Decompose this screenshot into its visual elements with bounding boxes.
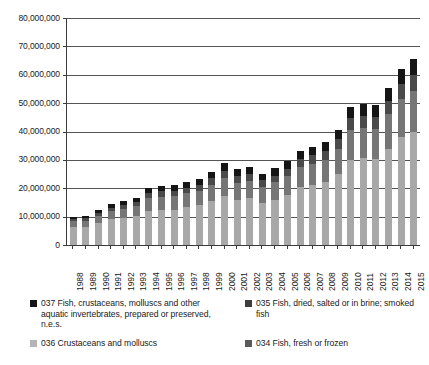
- bar-slot: [168, 18, 181, 245]
- bar-segment-034: [297, 187, 304, 245]
- legend-swatch-icon: [30, 300, 37, 307]
- bar-segment-034: [246, 198, 253, 245]
- stacked-bar[interactable]: [234, 169, 241, 245]
- bar-segment-037: [398, 69, 405, 84]
- stacked-bar[interactable]: [347, 107, 354, 245]
- bar-segment-034: [372, 159, 379, 245]
- x-axis-tick-label: 1988: [76, 272, 85, 291]
- x-axis-tick-label: 1994: [152, 272, 161, 291]
- bar-segment-035: [284, 169, 291, 177]
- legend-label: 037 Fish, crustaceans, molluscs and othe…: [41, 298, 220, 330]
- stacked-bar[interactable]: [95, 210, 102, 245]
- stacked-bar[interactable]: [297, 151, 304, 245]
- bar-segment-034: [259, 203, 266, 245]
- bar-segment-035: [335, 139, 342, 149]
- bar-segment-036: [297, 167, 304, 187]
- bar-segment-037: [284, 161, 291, 169]
- stacked-bar[interactable]: [385, 88, 392, 245]
- bar-slot: [319, 18, 332, 245]
- x-axis-tick-label: 2010: [354, 272, 363, 291]
- x-axis-tick-label: 2012: [379, 272, 388, 291]
- bar-segment-036: [246, 181, 253, 198]
- legend-swatch-icon: [245, 340, 252, 347]
- bar-segment-037: [259, 174, 266, 181]
- bar-segment-037: [360, 104, 367, 116]
- y-axis-tick-label: 80,000,000: [18, 14, 60, 23]
- bar-segment-036: [347, 130, 354, 160]
- bar-segment-034: [120, 218, 127, 245]
- stacked-bar[interactable]: [284, 161, 291, 245]
- stacked-bar[interactable]: [196, 179, 203, 245]
- y-axis-tick-label: 0: [55, 241, 60, 250]
- bar-segment-036: [398, 99, 405, 137]
- bar-segment-034: [234, 200, 241, 245]
- bar-segment-036: [171, 196, 178, 210]
- bar-segment-034: [196, 205, 203, 245]
- x-axis-tick-label: 1996: [177, 272, 186, 291]
- stacked-bar[interactable]: [360, 104, 367, 245]
- y-axis-tick-label: 70,000,000: [18, 42, 60, 51]
- bar-segment-036: [322, 160, 329, 182]
- bar-segment-036: [410, 91, 417, 132]
- bar-segment-037: [347, 107, 354, 119]
- bar-slot: [206, 18, 219, 245]
- stacked-bar[interactable]: [246, 167, 253, 245]
- plot-area: [66, 18, 420, 246]
- stacked-bar[interactable]: [398, 69, 405, 245]
- stacked-bar[interactable]: [208, 172, 215, 245]
- stacked-bar[interactable]: [70, 217, 77, 245]
- stacked-bar-chart: 010,000,00020,000,00030,000,00040,000,00…: [0, 0, 429, 365]
- bar-segment-035: [246, 174, 253, 181]
- bar-segment-036: [108, 211, 115, 219]
- stacked-bar[interactable]: [309, 147, 316, 245]
- y-axis-tick-label: 60,000,000: [18, 70, 60, 79]
- bar-segment-034: [183, 207, 190, 245]
- legend-item[interactable]: 037 Fish, crustaceans, molluscs and othe…: [30, 298, 220, 330]
- bar-slot: [143, 18, 156, 245]
- bar-segment-036: [183, 193, 190, 207]
- bar-segment-035: [410, 75, 417, 91]
- y-axis-tick-label: 30,000,000: [18, 155, 60, 164]
- stacked-bar[interactable]: [372, 105, 379, 245]
- stacked-bar[interactable]: [133, 198, 140, 245]
- stacked-bar[interactable]: [145, 188, 152, 245]
- stacked-bar[interactable]: [259, 174, 266, 245]
- bar-segment-036: [360, 128, 367, 158]
- legend-item[interactable]: 035 Fish, dried, salted or in brine; smo…: [245, 298, 425, 319]
- x-axis-tick-label: 1998: [202, 272, 211, 291]
- stacked-bar[interactable]: [322, 142, 329, 245]
- bar-slot: [357, 18, 370, 245]
- stacked-bar[interactable]: [82, 216, 89, 245]
- x-axis-tick-label: 2007: [316, 272, 325, 291]
- stacked-bar[interactable]: [108, 204, 115, 245]
- bar-segment-037: [271, 168, 278, 175]
- bar-segment-034: [95, 223, 102, 245]
- bar-segment-036: [372, 129, 379, 159]
- bar-segment-034: [108, 219, 115, 245]
- stacked-bar[interactable]: [183, 182, 190, 245]
- bar-segment-035: [372, 117, 379, 129]
- bar-segment-037: [309, 147, 316, 156]
- stacked-bar[interactable]: [335, 130, 342, 245]
- bar-slot: [92, 18, 105, 245]
- stacked-bar[interactable]: [271, 168, 278, 245]
- bar-group: [67, 18, 420, 245]
- x-axis-tick-label: 2004: [278, 272, 287, 291]
- bar-segment-034: [145, 211, 152, 245]
- stacked-bar[interactable]: [120, 201, 127, 245]
- stacked-bar[interactable]: [221, 163, 228, 245]
- y-axis-tick-label: 40,000,000: [18, 127, 60, 136]
- bar-segment-035: [398, 84, 405, 99]
- stacked-bar[interactable]: [171, 185, 178, 245]
- bar-segment-034: [133, 216, 140, 245]
- legend-item[interactable]: 034 Fish, fresh or frozen: [245, 338, 425, 349]
- plot-wrapper: 010,000,00020,000,00030,000,00040,000,00…: [0, 0, 429, 292]
- stacked-bar[interactable]: [158, 186, 165, 245]
- legend-item[interactable]: 036 Crustaceans and molluscs: [30, 338, 220, 349]
- bar-segment-036: [284, 176, 291, 195]
- stacked-bar[interactable]: [410, 59, 417, 245]
- bar-segment-035: [271, 176, 278, 183]
- bar-segment-036: [95, 216, 102, 223]
- bar-slot: [193, 18, 206, 245]
- legend-swatch-icon: [245, 300, 252, 307]
